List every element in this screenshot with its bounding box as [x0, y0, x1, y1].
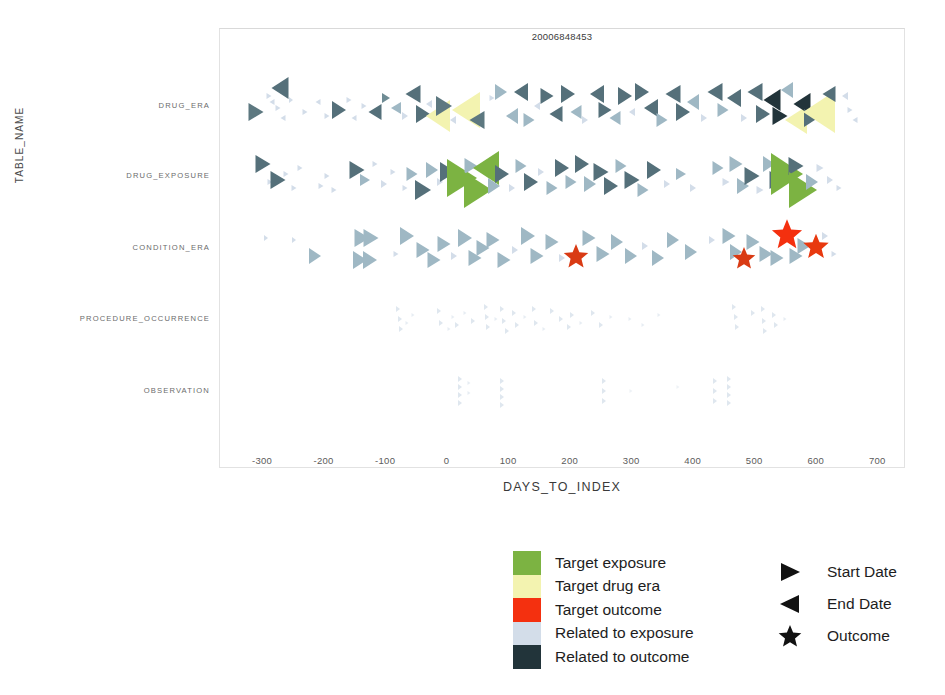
marker-start-date [471, 318, 475, 324]
marker-start-date [676, 168, 686, 180]
marker-end-date [506, 108, 518, 124]
marker-end-date [590, 85, 604, 103]
x-axis-title: DAYS_TO_INDEX [219, 480, 905, 494]
marker-start-date [494, 317, 497, 321]
marker-end-date [352, 115, 357, 121]
marker-start-date [656, 113, 667, 127]
legend-label: Target outcome [555, 601, 662, 619]
marker-start-date [332, 187, 337, 193]
marker-start-date [406, 321, 409, 325]
marker-start-date [521, 227, 535, 245]
marker-start-date [289, 97, 293, 103]
marker-start-date [523, 113, 534, 127]
legend-item: Target exposure [513, 551, 694, 575]
marker-end-date [629, 108, 635, 116]
x-tick-400: 400 [684, 455, 701, 466]
color-legend: Target exposureTarget drug eraTarget out… [513, 551, 694, 669]
marker-start-date [447, 327, 450, 331]
chart-page: 20006848453 DRUG_ERADRUG_EXPOSURECONDITI… [0, 0, 945, 695]
marker-end-date [316, 99, 321, 105]
marker-start-date [532, 306, 536, 312]
marker-start-date [596, 246, 609, 262]
marker-start-date [667, 232, 679, 248]
marker-start-date [628, 317, 631, 321]
x-tick--100: -100 [375, 455, 395, 466]
marker-start-date [400, 227, 414, 245]
marker-start-date [727, 376, 731, 382]
marker-start-date [396, 306, 400, 312]
y-tick-drug-exposure: DRUG_EXPOSURE [20, 171, 210, 180]
marker-start-date [451, 315, 454, 319]
shape-legend-item: End Date [773, 588, 897, 620]
marker-start-date [486, 324, 490, 330]
marker-end-date [534, 102, 540, 110]
y-axis-tick-labels: DRUG_ERADRUG_EXPOSURECONDITION_ERAPROCED… [14, 0, 210, 695]
marker-start-date [547, 181, 558, 195]
marker-start-date [458, 400, 462, 406]
x-tick-700: 700 [869, 455, 886, 466]
marker-start-date [836, 185, 841, 191]
marker-end-date [269, 99, 274, 105]
marker-start-date [363, 251, 377, 269]
marker-start-date [500, 402, 504, 408]
legend-item: Target outcome [513, 598, 694, 622]
marker-start-date [647, 161, 661, 179]
legend-item: Related to exposure [513, 622, 694, 646]
marker-start-date [732, 304, 736, 310]
marker-start-date [391, 169, 396, 175]
marker-start-date [500, 306, 504, 312]
marker-start-date [524, 315, 527, 319]
marker-start-date [575, 155, 589, 173]
marker-start-date [610, 315, 613, 319]
marker-start-date [467, 381, 470, 385]
legend-swatch-icon [513, 622, 541, 646]
marker-start-date [297, 165, 302, 171]
marker-end-date [549, 106, 562, 122]
marker-start-date [538, 168, 544, 176]
marker-end-date [272, 77, 289, 99]
marker-start-date [495, 165, 509, 183]
marker-start-date [763, 328, 767, 334]
marker-start-date [611, 234, 623, 250]
marker-start-date [487, 232, 500, 248]
marker-start-date [602, 378, 606, 384]
marker-start-date [602, 388, 606, 394]
marker-start-date [458, 229, 472, 247]
marker-start-date [402, 112, 408, 120]
star-icon [773, 624, 807, 648]
triangle-right-icon [773, 560, 807, 584]
marker-start-date [275, 105, 280, 111]
marker-start-date [415, 180, 431, 200]
marker-end-date [280, 115, 285, 121]
marker-start-date [735, 324, 739, 330]
marker-start-date [541, 88, 554, 104]
marker-start-date [360, 174, 370, 186]
shape-legend-label: Outcome [827, 627, 890, 645]
marker-start-date [625, 248, 637, 264]
marker-end-date [707, 83, 722, 101]
marker-start-date [318, 183, 323, 189]
marker-start-date [332, 101, 346, 119]
marker-start-date [583, 230, 596, 246]
marker-start-date [806, 174, 818, 190]
marker-start-date [485, 314, 489, 320]
marker-start-date [685, 244, 697, 260]
marker-start-date [505, 328, 509, 334]
shape-legend-label: End Date [827, 595, 892, 613]
marker-start-date [426, 162, 438, 178]
marker-start-date [744, 167, 759, 185]
marker-start-date [495, 84, 507, 100]
marker-start-date [381, 180, 387, 188]
marker-start-date [500, 394, 504, 400]
marker-start-date [455, 322, 459, 328]
marker-start-date [729, 156, 742, 172]
marker-start-date [325, 173, 330, 179]
marker-start-date [713, 398, 717, 404]
legend-item: Target drug era [513, 575, 694, 599]
legend-swatch-icon [513, 598, 541, 622]
marker-start-date [713, 161, 724, 175]
marker-start-date [567, 324, 571, 330]
marker-start-date [723, 228, 736, 244]
legend-swatch-icon [513, 575, 541, 599]
marker-start-date [709, 236, 715, 244]
